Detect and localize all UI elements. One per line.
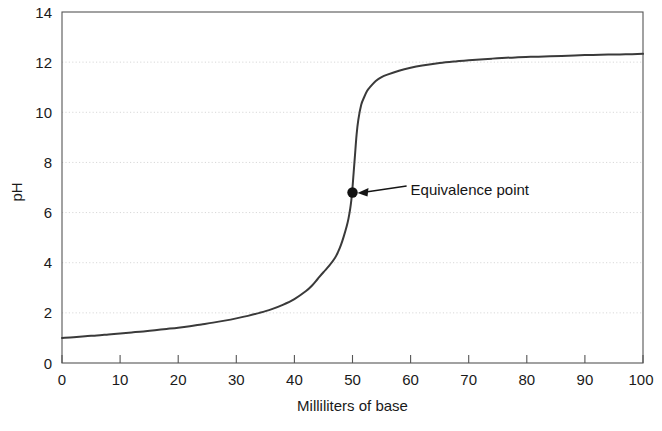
y-tick-labels: 0 2 4 6 8 10 12 14	[35, 4, 52, 372]
x-tick-label-100: 100	[628, 371, 653, 388]
x-tick-label-0: 0	[58, 371, 66, 388]
x-tick-label-60: 60	[402, 371, 419, 388]
y-tick-label-0: 0	[44, 355, 52, 372]
y-tick-label-4: 4	[44, 254, 52, 271]
x-tick-label-70: 70	[460, 371, 477, 388]
x-tick-label-20: 20	[170, 371, 187, 388]
x-tick-label-50: 50	[344, 371, 361, 388]
x-tick-labels: 0 10 20 30 40 50 60 70 80 90 100	[58, 371, 654, 388]
equivalence-point-label: Equivalence point	[411, 181, 530, 198]
y-tick-label-10: 10	[35, 104, 52, 121]
x-tick-label-40: 40	[286, 371, 303, 388]
y-tick-label-14: 14	[35, 4, 52, 21]
x-tick-label-30: 30	[228, 371, 245, 388]
y-tick-label-8: 8	[44, 154, 52, 171]
titration-curve-figure: 0 2 4 6 8 10 12 14 0 10 20 30 40 50 60 7…	[0, 0, 662, 431]
x-axis-label: Milliliters of base	[297, 397, 408, 414]
y-tick-label-12: 12	[35, 54, 52, 71]
y-tick-label-6: 6	[44, 204, 52, 221]
chart-canvas: 0 2 4 6 8 10 12 14 0 10 20 30 40 50 60 7…	[0, 0, 662, 431]
equivalence-point-marker	[347, 187, 357, 197]
x-tick-label-80: 80	[518, 371, 535, 388]
y-axis-label: pH	[8, 182, 25, 201]
x-tick-label-90: 90	[577, 371, 594, 388]
x-tick-label-10: 10	[112, 371, 129, 388]
y-tick-label-2: 2	[44, 304, 52, 321]
